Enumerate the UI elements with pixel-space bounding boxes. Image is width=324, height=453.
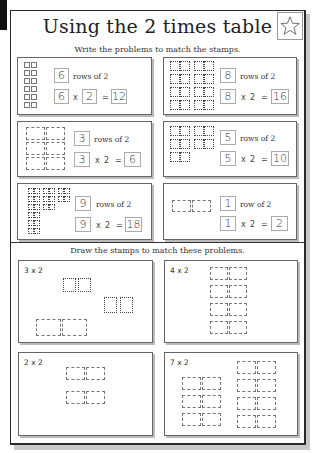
stamp-icon <box>31 62 37 68</box>
stamp-icon <box>180 74 190 84</box>
problem-label: 4 x 2 <box>170 266 189 275</box>
product-box[interactable]: 2 <box>271 216 288 231</box>
stamp-icon <box>24 102 30 108</box>
stamp-icon <box>210 321 228 334</box>
product-box[interactable]: 6 <box>124 152 141 167</box>
stamp-icon <box>180 139 190 149</box>
problem-card-1: 6 rows of 2 6 x 2 = 12 <box>17 57 152 115</box>
stamp-icon <box>46 142 65 155</box>
stamp-icon <box>34 212 40 218</box>
stamp-icon <box>170 87 180 97</box>
stamp-icon <box>31 94 37 100</box>
problem-label: 7 x 2 <box>170 358 189 367</box>
rows-answer-box[interactable]: 9 <box>75 196 91 211</box>
rows-label: rows of 2 <box>240 134 275 143</box>
section2-instruction: Draw the stamps to match these problems. <box>11 246 304 255</box>
stamp-icon <box>26 142 45 155</box>
stamp-icon <box>104 297 117 313</box>
problem-card-3: 3 rows of 2 3 x 2 = 6 <box>17 121 152 177</box>
stamp-icon <box>66 367 85 380</box>
problem-card-6: 1 row of 2 1 x 2 = 2 <box>163 183 297 240</box>
stamp-icon <box>202 377 221 390</box>
page-edge-tab <box>0 0 7 30</box>
rows-answer-box[interactable]: 3 <box>74 131 90 146</box>
draw-card-4[interactable]: 7 x 2 <box>164 352 298 436</box>
equals-sign: = <box>261 155 268 164</box>
stamp-icon <box>180 152 190 162</box>
draw-card-3[interactable]: 2 x 2 <box>18 352 153 436</box>
rows-answer-box[interactable]: 1 <box>220 196 236 211</box>
stamp-icon <box>192 200 211 212</box>
stamp-icon <box>86 391 105 404</box>
factor-a-box[interactable]: 3 <box>74 152 90 167</box>
rows-answer-box[interactable]: 5 <box>220 130 236 145</box>
stamp-icon <box>34 228 40 234</box>
stamp-icon <box>66 391 85 404</box>
product-box[interactable]: 10 <box>271 151 289 166</box>
times-sign: x <box>95 156 100 165</box>
stamp-icon <box>204 74 214 84</box>
stamp-icon <box>36 319 61 336</box>
factor-a-box[interactable]: 5 <box>220 151 236 166</box>
stamp-icon <box>78 278 91 292</box>
factor-a-box[interactable]: 6 <box>54 89 69 104</box>
stamp-icon <box>31 86 37 92</box>
stamp-icon <box>194 100 204 110</box>
product-box[interactable]: 12 <box>111 89 127 104</box>
stamp-icon <box>24 86 30 92</box>
section-divider <box>11 242 304 243</box>
equals-sign: = <box>102 93 109 102</box>
stamp-icon <box>120 297 133 313</box>
stamp-icon <box>34 220 40 226</box>
stamp-icon <box>204 61 214 71</box>
stamp-icon <box>194 126 204 136</box>
stamp-icon <box>194 87 204 97</box>
stamp-icon <box>31 70 37 76</box>
draw-card-1[interactable]: 3 x 2 <box>18 260 153 343</box>
factor-b: 2 <box>250 155 255 164</box>
stamp-icon <box>63 278 76 292</box>
factor-a-box[interactable]: 8 <box>220 89 236 104</box>
rows-answer-box[interactable]: 6 <box>54 68 69 83</box>
equals-sign: = <box>261 93 268 102</box>
stamp-icon <box>210 303 228 316</box>
rows-answer-box[interactable]: 8 <box>220 68 236 83</box>
stamp-icon <box>182 377 201 390</box>
stamp-icon <box>24 62 30 68</box>
factor-b: 2 <box>105 221 110 230</box>
draw-card-2[interactable]: 4 x 2 <box>164 260 298 343</box>
stamp-icon <box>180 61 190 71</box>
stamp-icon <box>237 397 256 410</box>
problem-label: 3 x 2 <box>24 266 43 275</box>
factor-b: 2 <box>250 93 255 102</box>
stamp-icon <box>26 157 45 170</box>
factor-a-box[interactable]: 9 <box>75 217 91 232</box>
stamp-icon <box>229 285 247 298</box>
equals-sign: = <box>116 221 123 230</box>
stamp-icon <box>64 188 70 194</box>
factor-b: 2 <box>104 156 109 165</box>
rows-label: rows of 2 <box>96 200 131 209</box>
rows-label: row of 2 <box>240 200 271 209</box>
stamp-icon <box>194 74 204 84</box>
stamp-icon <box>172 200 191 212</box>
stamp-icon <box>204 126 214 136</box>
stamp-icon <box>49 188 55 194</box>
stamp-icon <box>182 413 201 426</box>
product-box[interactable]: 18 <box>125 217 142 232</box>
stamp-icon <box>170 139 180 149</box>
stamp-icon <box>180 126 190 136</box>
stamp-icon <box>194 139 204 149</box>
equals-sign: = <box>115 156 122 165</box>
stamp-icon <box>229 303 247 316</box>
factor-b-box[interactable]: 2 <box>82 89 97 104</box>
stamp-icon <box>182 395 201 408</box>
product-box[interactable]: 16 <box>271 89 289 104</box>
stamp-icon <box>237 379 256 392</box>
stamp-icon <box>34 188 40 194</box>
stamp-icon <box>180 100 190 110</box>
stamp-icon <box>31 102 37 108</box>
factor-a-box[interactable]: 1 <box>220 216 236 231</box>
stamp-icon <box>194 61 204 71</box>
stamp-icon <box>49 196 55 202</box>
